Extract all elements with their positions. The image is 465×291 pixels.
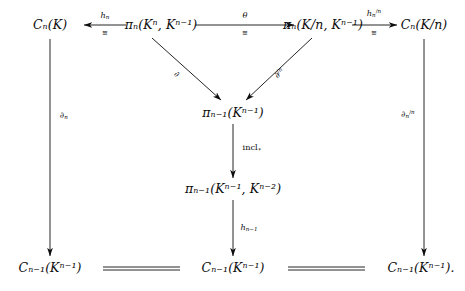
node-bottom-mid: Cₙ₋₁(Kⁿ⁻¹) (201, 262, 264, 275)
arrow-layer (0, 0, 465, 291)
node-center-upper: πₙ₋₁(Kⁿ⁻¹) (202, 107, 264, 120)
label-h-n: hn (101, 11, 110, 21)
equality-left (103, 267, 180, 270)
partial-diagonal-arrow (152, 38, 221, 100)
label-h-n-mod: hn/n (367, 9, 381, 19)
label-theta: θ (243, 11, 248, 19)
label-incl: incl∗ (243, 143, 262, 153)
node-top-mid-left: πₙ(Kⁿ, Kⁿ⁻¹) (125, 19, 198, 32)
label-h-n-minus-1: hn−1 (240, 223, 257, 233)
node-bottom-right: Cₙ₋₁(Kⁿ⁻¹). (387, 262, 454, 275)
label-partial-n-mod: ∂n/n (401, 110, 414, 120)
commutative-diagram: Cₙ(K) πₙ(Kⁿ, Kⁿ⁻¹) πₙ(K/n, Kⁿ⁻¹) Cₙ(K/n)… (0, 0, 465, 291)
node-bottom-left: Cₙ₋₁(Kⁿ⁻¹) (18, 262, 81, 275)
node-top-mid-right: πₙ(K/n, Kⁿ⁻¹) (283, 19, 363, 32)
node-top-left: Cₙ(K) (33, 19, 67, 32)
label-iso-theta: ≅ (242, 29, 248, 36)
label-iso-h-n: ≅ (102, 29, 108, 36)
equality-right (288, 267, 365, 270)
label-iso-h-n-mod: ≅ (371, 29, 377, 36)
label-partial-n: ∂n (60, 111, 68, 121)
node-center-lower: πₙ₋₁(Kⁿ⁻¹, Kⁿ⁻²) (185, 183, 281, 196)
node-top-right: Cₙ(K/n) (401, 19, 448, 32)
